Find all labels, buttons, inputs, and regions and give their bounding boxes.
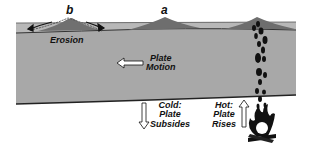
- campfire-icon: [248, 104, 276, 143]
- erosion-text: Erosion: [50, 36, 84, 45]
- label-a: a: [161, 3, 168, 17]
- label-erosion: Erosion: [50, 36, 84, 45]
- subside-arrow-icon: [139, 103, 149, 129]
- cold-line-3: Subsides: [150, 120, 190, 129]
- hot-line-3: Rises: [212, 120, 236, 129]
- plate-motion-line-2: Motion: [146, 63, 176, 72]
- label-b: b: [66, 3, 73, 17]
- label-hot: Hot: Plate Rises: [212, 101, 236, 129]
- label-cold: Cold: Plate Subsides: [150, 101, 190, 129]
- rise-arrow-icon: [239, 100, 249, 127]
- label-plate-motion: Plate Motion: [146, 54, 176, 73]
